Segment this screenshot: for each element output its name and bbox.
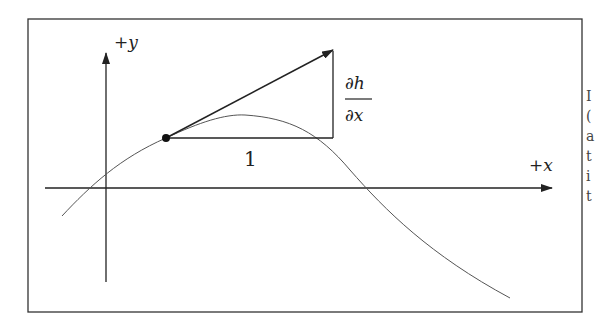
edge-text-fragment: i (586, 166, 600, 186)
x-axis-label: +x (529, 155, 553, 175)
edge-text-fragment: t (586, 186, 600, 206)
edge-text-fragment: I (586, 86, 600, 106)
tangent-vector (166, 50, 333, 138)
diagram-canvas: +y +x 1 ∂h ∂x (0, 0, 600, 328)
edge-text-fragment: a (586, 126, 600, 146)
y-axis-label: +y (114, 32, 138, 52)
function-curve (62, 115, 510, 298)
diagram-frame (28, 19, 582, 312)
edge-text-fragment: t (586, 146, 600, 166)
edge-text-fragment: ( (586, 106, 600, 126)
rise-numerator: ∂h (345, 73, 365, 93)
run-label: 1 (244, 147, 257, 171)
rise-denominator: ∂x (345, 105, 364, 125)
tangent-point (162, 134, 170, 142)
